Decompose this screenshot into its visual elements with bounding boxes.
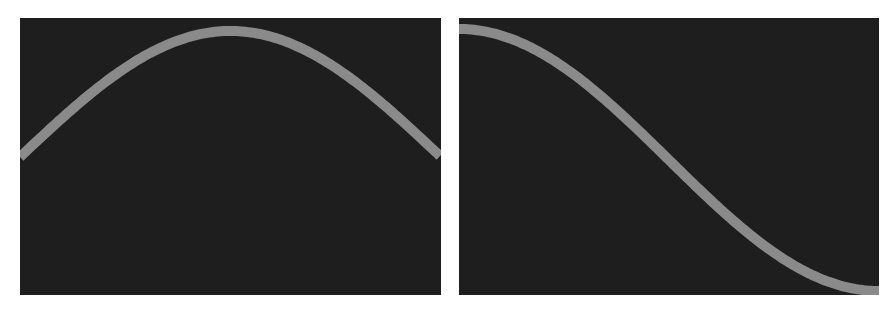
sine-arch-curve xyxy=(20,18,441,295)
right-panel xyxy=(459,18,879,295)
left-panel xyxy=(20,18,441,295)
cosine-descent-curve xyxy=(459,18,879,295)
